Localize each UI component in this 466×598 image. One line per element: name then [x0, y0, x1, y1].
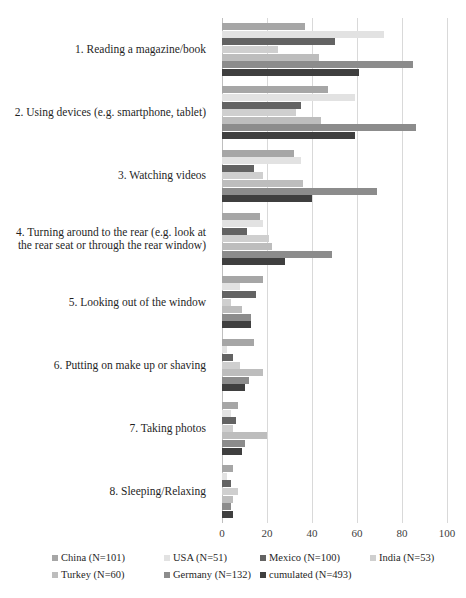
bar-group	[222, 207, 447, 270]
bar	[222, 195, 312, 202]
bar	[222, 243, 272, 250]
legend-row: Turkey (N=60)Germany (N=132)cumulated (N…	[52, 566, 452, 583]
bar	[222, 402, 238, 409]
bar	[222, 251, 332, 258]
bar	[222, 165, 254, 172]
legend-item[interactable]: China (N=101)	[52, 552, 125, 563]
legend-item[interactable]: India (N=53)	[370, 552, 434, 563]
bar-group	[222, 460, 447, 523]
bar	[222, 377, 249, 384]
legend-item[interactable]: USA (N=51)	[164, 552, 227, 563]
bar	[222, 157, 301, 164]
category-label: 3. Watching videos	[0, 169, 206, 182]
bar	[222, 180, 303, 187]
bar	[222, 94, 355, 101]
legend-swatch-icon	[52, 555, 58, 561]
category-label: 7. Taking photos	[0, 422, 206, 435]
legend-swatch-icon	[260, 555, 266, 561]
bar	[222, 425, 233, 432]
bar	[222, 432, 267, 439]
bar	[222, 188, 377, 195]
category-axis-labels: 1. Reading a magazine/book2. Using devic…	[0, 18, 214, 523]
bar	[222, 283, 240, 290]
legend-item[interactable]: Germany (N=132)	[164, 569, 251, 580]
bar	[222, 235, 269, 242]
bar	[222, 132, 355, 139]
x-tick-label: 80	[397, 527, 408, 539]
chart-legend: China (N=101)USA (N=51)Mexico (N=100)Ind…	[52, 549, 452, 583]
legend-item[interactable]: Mexico (N=100)	[260, 552, 340, 563]
bar	[222, 117, 321, 124]
bar	[222, 511, 233, 518]
bar-groups	[222, 18, 447, 523]
bar	[222, 339, 254, 346]
bar	[222, 124, 416, 131]
legend-swatch-icon	[52, 572, 58, 578]
bar	[222, 362, 240, 369]
category-label: 5. Looking out of the window	[0, 296, 206, 309]
bar	[222, 102, 301, 109]
bar	[222, 61, 413, 68]
bar-group	[222, 18, 447, 81]
bar	[222, 354, 233, 361]
bar-group	[222, 271, 447, 334]
bar	[222, 291, 256, 298]
legend-item[interactable]: Turkey (N=60)	[52, 569, 125, 580]
bar	[222, 109, 296, 116]
bar	[222, 448, 242, 455]
bar	[222, 473, 227, 480]
bar-group	[222, 334, 447, 397]
bar	[222, 410, 231, 417]
bar	[222, 258, 285, 265]
legend-label: Turkey (N=60)	[61, 569, 125, 580]
x-tick-label: 20	[262, 527, 273, 539]
legend-swatch-icon	[164, 572, 170, 578]
bar	[222, 54, 319, 61]
legend-swatch-icon	[260, 572, 266, 578]
legend-label: USA (N=51)	[173, 552, 227, 563]
legend-label: Germany (N=132)	[173, 569, 251, 580]
bar	[222, 31, 384, 38]
bar	[222, 384, 245, 391]
bar	[222, 172, 263, 179]
bar-group	[222, 81, 447, 144]
x-tick-label: 0	[219, 527, 225, 539]
bar	[222, 150, 294, 157]
x-tick-label: 40	[307, 527, 318, 539]
category-label: 4. Turning around to the rear (e.g. look…	[0, 226, 206, 252]
bar	[222, 86, 328, 93]
legend-swatch-icon	[370, 555, 376, 561]
category-label: 6. Putting on make up or shaving	[0, 359, 206, 372]
bar-group	[222, 397, 447, 460]
bar	[222, 465, 233, 472]
x-tick-label: 60	[352, 527, 363, 539]
category-label: 1. Reading a magazine/book	[0, 43, 206, 56]
bar	[222, 417, 236, 424]
legend-swatch-icon	[164, 555, 170, 561]
legend-label: India (N=53)	[379, 552, 434, 563]
legend-item[interactable]: cumulated (N=493)	[260, 569, 352, 580]
legend-label: cumulated (N=493)	[269, 569, 352, 580]
bar	[222, 496, 233, 503]
bar	[222, 346, 227, 353]
category-label: 2. Using devices (e.g. smartphone, table…	[0, 106, 206, 119]
bar	[222, 314, 251, 321]
bar	[222, 213, 260, 220]
bar	[222, 299, 231, 306]
bar	[222, 23, 305, 30]
legend-row: China (N=101)USA (N=51)Mexico (N=100)Ind…	[52, 549, 452, 566]
bar	[222, 369, 263, 376]
gridline-100	[447, 18, 448, 523]
bar-group	[222, 144, 447, 207]
bar	[222, 480, 231, 487]
bar	[222, 488, 238, 495]
plot-area	[222, 18, 447, 523]
value-axis: 020406080100	[222, 523, 447, 541]
bar	[222, 38, 335, 45]
bar	[222, 69, 359, 76]
legend-label: Mexico (N=100)	[269, 552, 340, 563]
bar	[222, 440, 245, 447]
bar	[222, 46, 278, 53]
bar	[222, 228, 247, 235]
bar	[222, 276, 263, 283]
